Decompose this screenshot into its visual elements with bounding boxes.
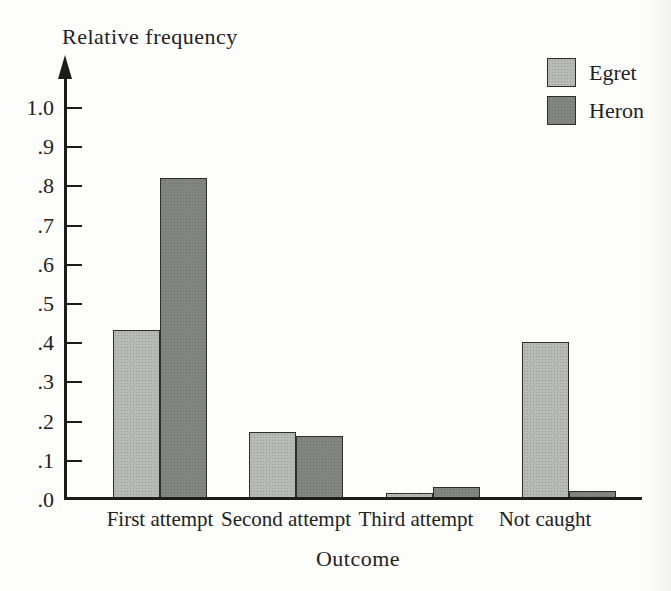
y-tick-label: .0 <box>8 488 54 512</box>
y-tick-label: .9 <box>8 135 54 159</box>
scan-edge-shading <box>645 0 671 591</box>
y-tick-label: .8 <box>8 174 54 198</box>
bar-egret-first-attempt <box>113 330 160 499</box>
legend-swatch-egret <box>547 58 576 87</box>
y-tick-mark <box>67 303 82 305</box>
y-tick-label: .5 <box>8 292 54 316</box>
y-tick-label: .4 <box>8 331 54 355</box>
y-tick-mark <box>67 421 82 423</box>
y-tick-mark <box>67 146 82 148</box>
relative-frequency-bar-chart: Relative frequency 1.0.9.8.7.6.5.4.3.2.1… <box>0 0 671 591</box>
category-label-not-caught: Not caught <box>445 507 645 532</box>
bar-egret-not-caught <box>522 342 569 499</box>
y-tick-mark <box>67 342 82 344</box>
y-tick-mark <box>67 107 82 109</box>
y-tick-label: 1.0 <box>8 96 54 120</box>
legend-label-heron: Heron <box>589 96 644 125</box>
x-axis-title: Outcome <box>268 546 448 572</box>
y-tick-mark <box>67 185 82 187</box>
y-tick-mark <box>67 264 82 266</box>
y-tick-label: .2 <box>8 410 54 434</box>
x-axis-line <box>64 497 642 500</box>
legend-swatch-heron <box>547 96 576 125</box>
y-axis-title: Relative frequency <box>62 24 238 50</box>
y-tick-label: .6 <box>8 253 54 277</box>
y-tick-label: .7 <box>8 214 54 238</box>
y-tick-label: .1 <box>8 449 54 473</box>
y-tick-label: .3 <box>8 370 54 394</box>
bar-egret-second-attempt <box>249 432 296 499</box>
y-tick-mark <box>67 225 82 227</box>
y-tick-mark <box>67 381 82 383</box>
bar-heron-second-attempt <box>296 436 343 499</box>
legend-label-egret: Egret <box>589 58 637 87</box>
y-axis-line <box>64 70 67 500</box>
y-tick-mark <box>67 460 82 462</box>
bar-heron-first-attempt <box>160 178 207 499</box>
